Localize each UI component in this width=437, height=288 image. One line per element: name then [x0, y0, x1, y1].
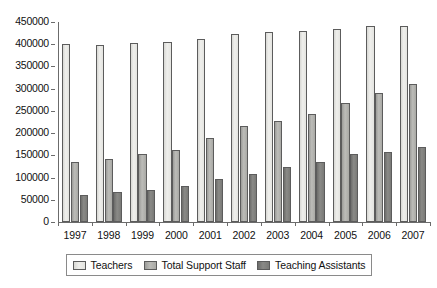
bar	[231, 34, 239, 222]
x-axis-tick-mark	[396, 222, 397, 226]
x-axis-tick-label: 2001	[193, 229, 227, 242]
bar	[172, 150, 180, 222]
legend-item: Teaching Assistants	[257, 259, 365, 271]
bar	[249, 174, 257, 222]
legend-label: Total Support Staff	[162, 259, 246, 271]
x-axis-tick-label: 2000	[159, 229, 193, 242]
bar	[215, 179, 223, 222]
y-axis-tick-mark	[51, 66, 55, 67]
bar	[350, 154, 358, 222]
legend-swatch	[144, 261, 157, 270]
legend-item: Total Support Staff	[144, 259, 246, 271]
x-axis-tick-label: 2005	[329, 229, 363, 242]
x-axis-tick-mark	[126, 222, 127, 226]
x-axis-line	[58, 222, 431, 223]
bar	[240, 126, 248, 222]
y-axis-tick-label: 300000	[15, 82, 49, 94]
bar	[274, 121, 282, 222]
bar	[181, 186, 189, 222]
x-axis-tick-mark	[362, 222, 363, 226]
x-axis-tick-mark	[92, 222, 93, 226]
bar	[265, 32, 273, 222]
x-axis-tick-mark	[329, 222, 330, 226]
y-axis-tick-mark	[51, 89, 55, 90]
y-axis-tick-label: 450000	[15, 15, 49, 27]
bar	[400, 26, 408, 222]
y-axis-tick-mark	[51, 222, 55, 223]
x-axis-tick-label: 2002	[227, 229, 261, 242]
y-axis-tick-label: 200000	[15, 126, 49, 138]
bar	[316, 162, 324, 222]
bar	[299, 31, 307, 222]
legend-item: Teachers	[73, 259, 133, 271]
bar	[130, 43, 138, 222]
y-axis-tick-label: 350000	[15, 59, 49, 71]
y-axis-tick-mark	[51, 44, 55, 45]
y-axis-tick-label: 250000	[15, 104, 49, 116]
bar	[147, 190, 155, 222]
x-axis-tick-mark	[159, 222, 160, 226]
y-axis-tick-mark	[51, 22, 55, 23]
x-axis-tick-label: 1997	[58, 229, 92, 242]
bar	[197, 39, 205, 222]
bar-chart: 0500001000001500002000002500003000003500…	[0, 0, 437, 288]
x-axis-tick-label: 2006	[362, 229, 396, 242]
legend-label: Teachers	[91, 259, 133, 271]
y-axis-tick-mark	[51, 111, 55, 112]
bar	[71, 162, 79, 222]
bar	[375, 93, 383, 222]
x-axis-tick-label: 1998	[92, 229, 126, 242]
y-axis-tick-label: 100000	[15, 171, 49, 183]
x-axis-tick-label: 2003	[261, 229, 295, 242]
y-axis-tick-mark	[51, 178, 55, 179]
chart-legend: TeachersTotal Support StaffTeaching Assi…	[66, 254, 372, 276]
bar	[113, 192, 121, 222]
legend-swatch	[257, 261, 270, 270]
x-axis-tick-label: 2004	[295, 229, 329, 242]
bar	[96, 45, 104, 222]
bar	[409, 84, 417, 222]
y-axis-tick-mark	[51, 200, 55, 201]
bar	[384, 152, 392, 222]
bar	[206, 138, 214, 222]
bar	[80, 195, 88, 222]
bar	[163, 42, 171, 222]
y-axis-tick-mark	[51, 133, 55, 134]
bar	[283, 167, 291, 222]
bar	[62, 44, 70, 222]
plot-area	[58, 22, 430, 222]
bar	[366, 26, 374, 222]
y-axis-tick-label: 0	[43, 215, 49, 227]
bar	[333, 29, 341, 222]
x-axis-tick-mark	[227, 222, 228, 226]
x-axis-tick-mark	[58, 222, 59, 226]
bar	[308, 114, 316, 222]
bar	[341, 103, 349, 222]
x-axis-tick-mark	[295, 222, 296, 226]
bar	[138, 154, 146, 222]
y-axis-tick-label: 150000	[15, 148, 49, 160]
y-axis-tick-label: 50000	[21, 193, 49, 205]
x-axis-tick-mark	[430, 222, 431, 226]
x-axis-tick-label: 2007	[396, 229, 430, 242]
legend-label: Teaching Assistants	[275, 259, 365, 271]
legend-swatch	[73, 261, 86, 270]
x-axis-tick-label: 1999	[126, 229, 160, 242]
x-axis-tick-mark	[261, 222, 262, 226]
bar	[105, 159, 113, 222]
x-axis-tick-mark	[193, 222, 194, 226]
bar	[418, 147, 426, 222]
y-axis-tick-label: 400000	[15, 37, 49, 49]
y-axis-tick-mark	[51, 155, 55, 156]
